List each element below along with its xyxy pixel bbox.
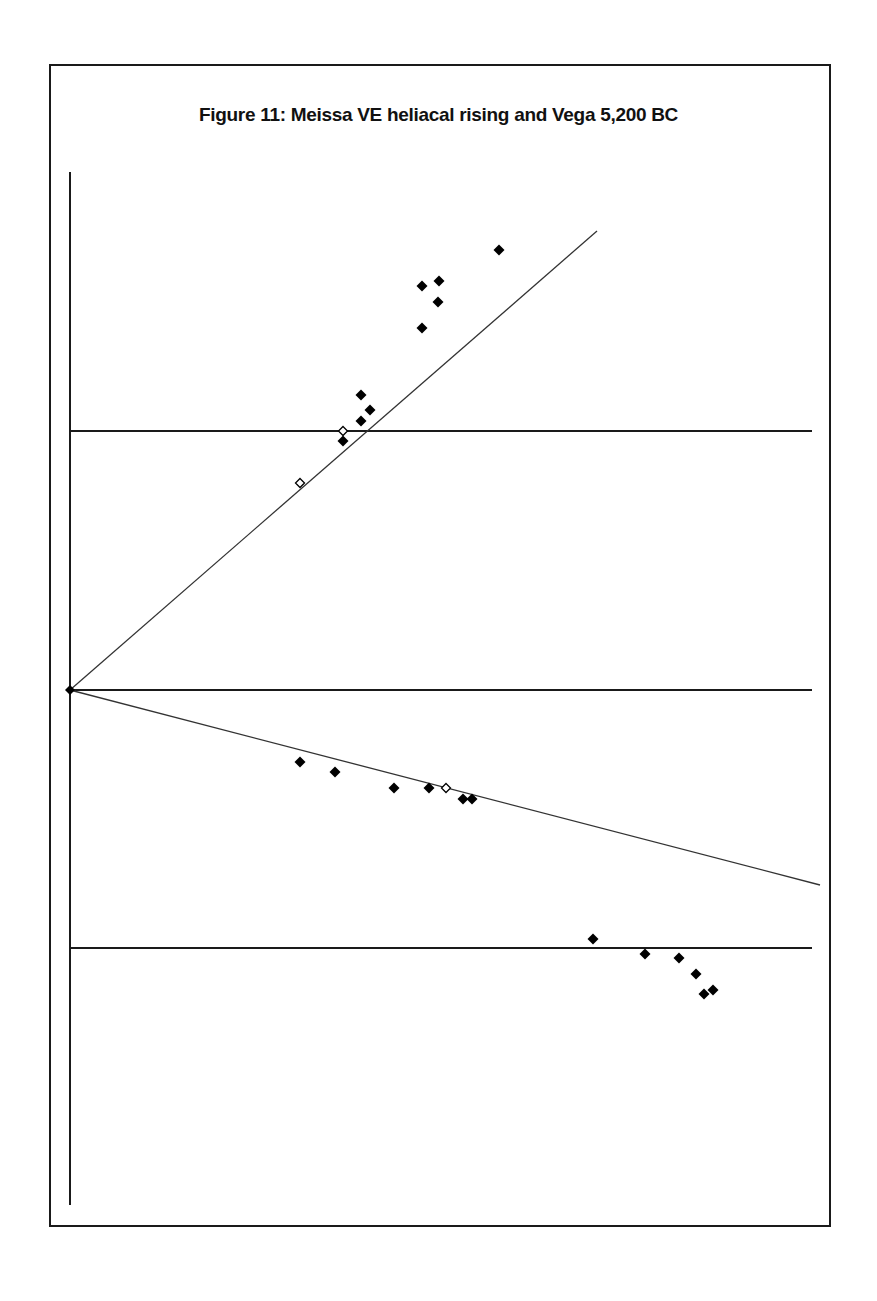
- data-point-open: [339, 427, 348, 436]
- data-point-filled: [330, 767, 341, 778]
- upper-diagonal-line: [70, 231, 597, 690]
- data-point-filled: [365, 405, 376, 416]
- data-point-open: [442, 784, 451, 793]
- data-point-filled: [295, 757, 306, 768]
- data-point-filled: [356, 416, 367, 427]
- data-point-filled: [389, 783, 400, 794]
- data-point-filled: [640, 949, 651, 960]
- data-point-filled: [433, 297, 444, 308]
- scatter-plot: [0, 0, 877, 1301]
- data-point-filled: [417, 281, 428, 292]
- data-point-filled: [691, 969, 702, 980]
- data-points: [65, 245, 719, 1000]
- data-point-filled: [588, 934, 599, 945]
- data-point-filled: [356, 390, 367, 401]
- axes-group: [70, 172, 812, 1205]
- data-point-filled: [674, 953, 685, 964]
- data-point-filled: [434, 276, 445, 287]
- data-point-filled: [494, 245, 505, 256]
- data-point-filled: [338, 436, 349, 447]
- data-point-filled: [417, 323, 428, 334]
